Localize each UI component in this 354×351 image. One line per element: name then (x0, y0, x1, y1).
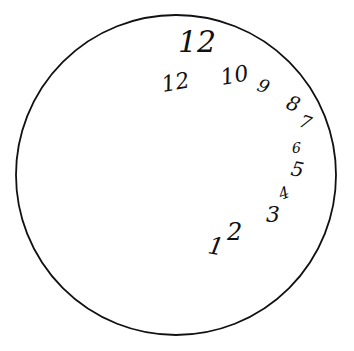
clock-number: 3 (266, 202, 280, 227)
clock-number: 12 (160, 67, 192, 96)
clock-face-circle (16, 15, 336, 335)
clock-number: 9 (255, 74, 273, 98)
clock-number: 8 (283, 90, 303, 117)
clock-numbers: 1210987654321 (160, 60, 316, 261)
clock-drawing: 12 1210987654321 (0, 0, 354, 351)
clock-number: 4 (275, 182, 292, 204)
top-twelve-label: 12 (178, 24, 216, 59)
clock-number: 10 (219, 60, 251, 89)
clock-number: 2 (226, 218, 242, 246)
clock-number: 7 (297, 110, 315, 134)
clock-number: 5 (289, 156, 306, 182)
clock-number: 1 (206, 231, 226, 261)
clock-number: 6 (292, 140, 301, 156)
